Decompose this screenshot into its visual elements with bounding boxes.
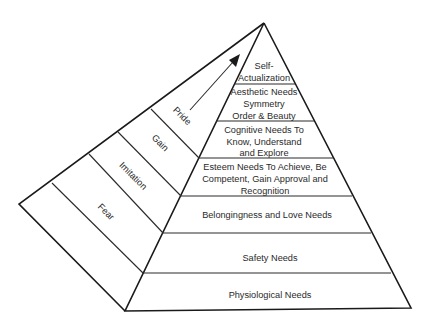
side-label-gain: Gain bbox=[150, 132, 171, 153]
svg-text:and Explore: and Explore bbox=[239, 148, 288, 158]
level-safety: Safety Needs bbox=[242, 253, 298, 263]
level-text: Safety Needs bbox=[242, 253, 298, 263]
side-label-imitation: Imitation bbox=[117, 160, 149, 192]
svg-text:Symmetry: Symmetry bbox=[243, 99, 285, 109]
svg-text:Self-: Self- bbox=[255, 61, 274, 71]
level-text: Physiological Needs bbox=[229, 290, 312, 300]
level-text: Aesthetic Needs bbox=[231, 87, 298, 97]
svg-text:Safety Needs: Safety Needs bbox=[242, 253, 298, 263]
svg-text:Aesthetic Needs: Aesthetic Needs bbox=[231, 87, 298, 97]
level-text: Order & Beauty bbox=[232, 111, 296, 121]
level-text: Self- bbox=[255, 61, 274, 71]
svg-text:Know, Understand: Know, Understand bbox=[226, 137, 301, 147]
svg-text:Cognitive Needs To: Cognitive Needs To bbox=[224, 125, 304, 135]
level-esteem: Esteem Needs To Achieve, Be Competent, G… bbox=[202, 162, 328, 196]
level-text: Symmetry bbox=[243, 99, 285, 109]
side-label-pride: Pride bbox=[171, 105, 193, 127]
level-cognitive: Cognitive Needs To Know, Understand and … bbox=[224, 125, 304, 158]
side-label-fear: Fear bbox=[96, 202, 116, 222]
svg-text:Actualization: Actualization bbox=[238, 73, 290, 83]
svg-text:Competent, Gain Approval and: Competent, Gain Approval and bbox=[202, 174, 328, 184]
svg-text:Order & Beauty: Order & Beauty bbox=[232, 111, 296, 121]
level-text: Cognitive Needs To bbox=[224, 125, 304, 135]
level-self-actualization: Self- Actualization bbox=[238, 61, 290, 83]
level-text: Competent, Gain Approval and bbox=[202, 174, 328, 184]
arrow-up-right-icon bbox=[190, 54, 240, 110]
side-dividers bbox=[52, 109, 199, 273]
level-text: and Explore bbox=[239, 148, 288, 158]
level-physiological: Physiological Needs bbox=[229, 290, 312, 300]
svg-text:Esteem Needs To Achieve, Be: Esteem Needs To Achieve, Be bbox=[203, 162, 326, 172]
level-text: Know, Understand bbox=[226, 137, 301, 147]
level-text: Actualization bbox=[238, 73, 290, 83]
level-text: Belongingness and Love Needs bbox=[202, 210, 332, 220]
maslow-pyramid-diagram: Self- Actualization Aesthetic Needs Symm… bbox=[0, 0, 425, 330]
level-text: Esteem Needs To Achieve, Be bbox=[203, 162, 326, 172]
level-text: Recognition bbox=[241, 186, 290, 196]
svg-text:Recognition: Recognition bbox=[241, 186, 290, 196]
level-aesthetic: Aesthetic Needs Symmetry Order & Beauty bbox=[231, 87, 298, 121]
level-belongingness: Belongingness and Love Needs bbox=[202, 210, 332, 220]
svg-text:Belongingness and Love Needs: Belongingness and Love Needs bbox=[202, 210, 332, 220]
svg-text:Physiological Needs: Physiological Needs bbox=[229, 290, 312, 300]
